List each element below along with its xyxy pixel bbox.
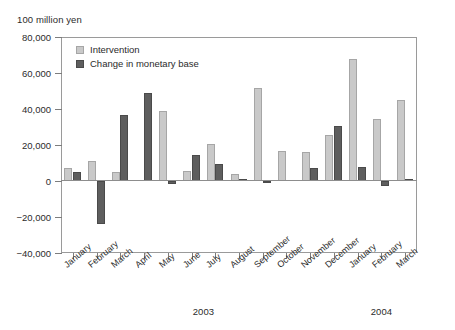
x-axis-year-caption: 2004 bbox=[371, 306, 392, 317]
bar-chart: 100 million yen 80,00060,00040,00020,000… bbox=[0, 0, 455, 330]
y-axis-tick-label: 60,000 bbox=[22, 68, 51, 79]
legend-label-monetary-base: Change in monetary base bbox=[90, 58, 199, 69]
y-axis-tick-label: 0 bbox=[46, 176, 51, 187]
y-axis-tick-label: −40,000 bbox=[16, 248, 51, 259]
bar-intervention bbox=[349, 59, 357, 181]
y-axis-tick-label: 40,000 bbox=[22, 104, 51, 115]
bar-intervention bbox=[278, 151, 286, 181]
legend-label-intervention: Intervention bbox=[90, 44, 140, 55]
y-axis-unit-caption: 100 million yen bbox=[17, 14, 82, 25]
y-axis-tick-label: 20,000 bbox=[22, 140, 51, 151]
bar-monetary-base bbox=[334, 126, 342, 181]
bar-monetary-base bbox=[120, 115, 128, 181]
bar-monetary-base bbox=[215, 164, 223, 181]
zero-baseline bbox=[61, 180, 417, 181]
bar-intervention bbox=[207, 144, 215, 181]
legend-item-monetary-base: Change in monetary base bbox=[76, 57, 199, 70]
legend-item-intervention: Intervention bbox=[76, 43, 199, 56]
bar-monetary-base bbox=[263, 181, 271, 183]
y-axis-tick bbox=[55, 253, 62, 254]
x-axis-tick-label: April bbox=[133, 250, 153, 269]
y-axis-tick-label: 80,000 bbox=[22, 32, 51, 43]
bar-monetary-base bbox=[310, 168, 318, 182]
bar-intervention bbox=[302, 152, 310, 181]
bar-intervention bbox=[373, 119, 381, 181]
chart-legend: Intervention Change in monetary base bbox=[76, 43, 199, 71]
bar-monetary-base bbox=[168, 181, 176, 184]
legend-swatch-icon-monetary-base bbox=[76, 60, 84, 68]
bar-intervention bbox=[159, 111, 167, 181]
y-axis-tick-label: −20,000 bbox=[16, 212, 51, 223]
x-axis-year-caption: 2003 bbox=[193, 306, 214, 317]
bar-monetary-base bbox=[358, 167, 366, 181]
bar-intervention bbox=[325, 135, 333, 181]
bar-intervention bbox=[88, 161, 96, 181]
bar-intervention bbox=[397, 100, 405, 181]
bar-monetary-base bbox=[192, 155, 200, 181]
bar-monetary-base bbox=[381, 181, 389, 186]
bar-monetary-base bbox=[97, 181, 105, 224]
x-axis-tick-label: May bbox=[157, 251, 176, 270]
bar-intervention bbox=[254, 88, 262, 181]
x-axis-tick-label: July bbox=[204, 252, 223, 270]
legend-swatch-icon-intervention bbox=[76, 46, 84, 54]
bar-monetary-base bbox=[144, 93, 152, 181]
